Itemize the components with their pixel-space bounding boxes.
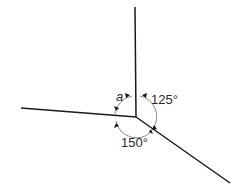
arrowhead-icon (114, 106, 119, 111)
angle-label-125: 125° (151, 92, 178, 107)
line-left (21, 108, 136, 117)
line-lower-right (136, 117, 230, 183)
arrowhead-icon (152, 125, 157, 130)
angle-label-a: a (116, 89, 123, 104)
angle-diagram: a 125° 150° (0, 0, 246, 193)
line-up (135, 7, 136, 117)
angle-label-150: 150° (121, 135, 148, 150)
